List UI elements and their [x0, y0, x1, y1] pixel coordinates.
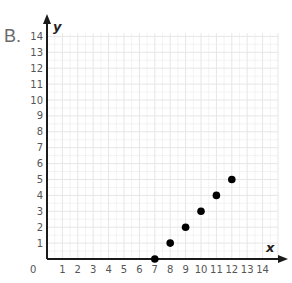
data-point	[213, 192, 221, 200]
y-tick-label: 8	[37, 126, 43, 137]
x-tick-label: 9	[182, 264, 188, 275]
x-tick-label: 1	[59, 264, 65, 275]
x-tick-label: 13	[241, 264, 254, 275]
tick-labels: xy12345678910111213141234567891011121314…	[30, 19, 275, 275]
x-axis-label: x	[265, 240, 275, 255]
x-tick-label: 14	[256, 264, 269, 275]
y-tick-label: 13	[30, 47, 43, 58]
grid-lines	[47, 33, 278, 259]
x-tick-label: 12	[225, 264, 238, 275]
x-tick-label: 5	[121, 264, 127, 275]
x-tick-label: 10	[195, 264, 208, 275]
x-tick-label: 3	[90, 264, 96, 275]
x-tick-label: 11	[210, 264, 223, 275]
y-tick-label: 7	[37, 142, 43, 153]
y-axis-arrow-icon	[43, 14, 51, 24]
x-tick-label: 4	[105, 264, 111, 275]
x-axis-arrow-icon	[278, 255, 288, 263]
y-tick-label: 12	[30, 63, 43, 74]
y-tick-label: 10	[30, 95, 43, 106]
data-point	[166, 239, 174, 247]
y-tick-label: 11	[30, 79, 43, 90]
data-point	[228, 176, 236, 184]
x-tick-label: 2	[75, 264, 81, 275]
x-tick-label: 8	[167, 264, 173, 275]
scatter-chart: xy12345678910111213141234567891011121314…	[0, 0, 292, 283]
y-axis-label: y	[53, 19, 62, 34]
y-tick-label: 9	[37, 110, 43, 121]
y-tick-label: 4	[37, 190, 43, 201]
y-tick-label: 1	[37, 238, 43, 249]
data-point	[197, 208, 205, 216]
x-tick-label: 7	[152, 264, 158, 275]
data-point	[151, 255, 159, 263]
x-tick-label: 6	[136, 264, 142, 275]
origin-label: 0	[30, 264, 36, 275]
y-tick-label: 14	[30, 31, 43, 42]
y-tick-label: 2	[37, 222, 43, 233]
axes	[43, 14, 288, 263]
y-tick-label: 5	[37, 174, 43, 185]
y-tick-label: 6	[37, 158, 43, 169]
data-point	[182, 223, 190, 231]
y-tick-label: 3	[37, 206, 43, 217]
